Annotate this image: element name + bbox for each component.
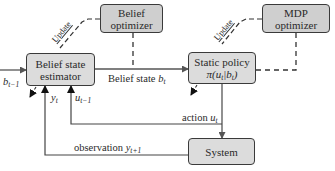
estimator-label-2: estimator [40, 70, 81, 82]
mdp-optimizer-dashed-link [256, 33, 296, 70]
policy-label-1: Static policy [194, 56, 249, 68]
estimator-label-1: Belief state [36, 58, 86, 70]
estimator-dashed-arrow [30, 87, 36, 97]
belief-optimizer-box: Belief optimizer [100, 4, 163, 33]
belief-state-label: Belief state bt [108, 73, 166, 84]
policy-dashed-arrow [191, 85, 197, 95]
static-policy-box: Static policy π(ut|bt) [188, 52, 256, 84]
belief-optimizer-label-1: Belief [118, 7, 145, 19]
mdp-optimizer-label-1: MDP [284, 7, 308, 19]
feedback-u-label: ut−1 [75, 92, 91, 103]
observation-label: observation yt+1 [74, 142, 141, 153]
policy-formula: π(ut|bt) [206, 68, 237, 80]
belief-optimizer-label-2: optimizer [110, 19, 152, 31]
input-label: bt−1 [3, 76, 19, 87]
system-box: System [188, 138, 255, 165]
system-label: System [205, 146, 237, 158]
belief-state-estimator-box: Belief state estimator [26, 53, 95, 86]
action-label: action ut [182, 112, 218, 123]
mdp-optimizer-box: MDP optimizer [262, 4, 330, 33]
mdp-optimizer-label-2: optimizer [275, 19, 317, 31]
feedback-y-label: yt [51, 92, 58, 103]
